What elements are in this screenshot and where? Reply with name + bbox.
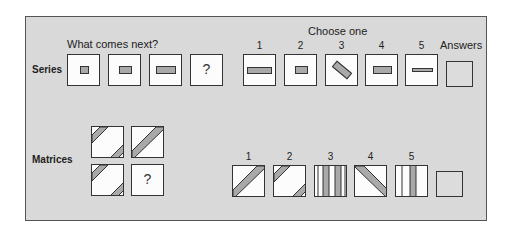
- choose-one-title: Choose one: [308, 25, 367, 37]
- matrix-choice-number-5: 5: [395, 151, 428, 162]
- choice-number-1: 1: [243, 40, 276, 51]
- matrix-choice-3[interactable]: [314, 165, 347, 197]
- matrix-cell-top-left: [91, 126, 124, 158]
- series-answer-box[interactable]: [446, 61, 473, 87]
- series-item-unknown: ?: [190, 54, 223, 86]
- double-diagonal-stripe-icon: [274, 166, 306, 197]
- series-choice-5[interactable]: [405, 54, 438, 86]
- series-item-2: [108, 54, 141, 86]
- double-vertical-stripe-icon: [315, 166, 347, 197]
- matrix-choice-number-2: 2: [273, 151, 306, 162]
- single-diagonal-stripe-icon: [132, 127, 164, 158]
- double-diagonal-stripe-icon: [92, 127, 124, 158]
- matrix-answer-box[interactable]: [436, 171, 463, 197]
- choice-number-2: 2: [284, 40, 317, 51]
- rotated-rectangle-shape: [332, 61, 352, 80]
- matrix-choice-number-3: 3: [314, 151, 347, 162]
- matrix-choice-number-4: 4: [354, 151, 387, 162]
- question-mark: ?: [132, 171, 163, 187]
- series-item-1: [67, 54, 100, 86]
- series-prompt: What comes next?: [67, 38, 158, 50]
- rectangle-shape: [156, 66, 176, 74]
- series-choice-4[interactable]: [365, 54, 398, 86]
- single-vertical-stripe-icon: [396, 166, 428, 197]
- series-choice-3[interactable]: [325, 54, 358, 86]
- series-label: Series: [32, 64, 62, 75]
- choice-number-3: 3: [325, 40, 358, 51]
- rectangle-shape: [373, 66, 392, 74]
- rectangle-shape: [119, 66, 132, 74]
- matrix-cell-bottom-left: [91, 164, 124, 196]
- matrix-choice-1[interactable]: [232, 165, 265, 197]
- matrix-choice-5[interactable]: [395, 165, 428, 197]
- series-choice-1[interactable]: [243, 54, 276, 86]
- double-diagonal-stripe-icon: [92, 165, 124, 196]
- matrix-choice-number-1: 1: [232, 151, 265, 162]
- rectangle-shape: [247, 67, 272, 74]
- matrix-cell-top-right: [131, 126, 164, 158]
- thin-rectangle-shape: [412, 68, 433, 72]
- rectangle-shape: [80, 66, 89, 74]
- series-item-3: [149, 54, 182, 86]
- matrix-choice-4[interactable]: [354, 165, 387, 197]
- question-mark: ?: [191, 61, 222, 77]
- matrices-label: Matrices: [32, 154, 73, 165]
- reverse-diagonal-stripe-icon: [355, 166, 387, 197]
- rectangle-shape: [295, 66, 308, 74]
- answers-label: Answers: [440, 39, 482, 51]
- series-choice-2[interactable]: [284, 54, 317, 86]
- choice-number-5: 5: [405, 40, 438, 51]
- choice-number-4: 4: [365, 40, 398, 51]
- single-diagonal-stripe-icon: [233, 166, 265, 197]
- matrix-choice-2[interactable]: [273, 165, 306, 197]
- matrix-cell-unknown: ?: [131, 164, 164, 196]
